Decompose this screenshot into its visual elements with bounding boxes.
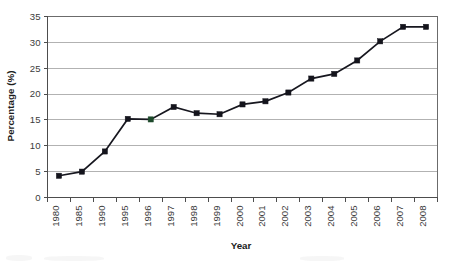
data-point-2006 [378, 39, 383, 44]
x-tick-label-2004: 2004 [325, 205, 336, 227]
x-tick-label-2007: 2007 [394, 206, 405, 227]
x-tick-label-1995: 1995 [119, 206, 130, 227]
data-point-1998 [194, 111, 199, 116]
x-tick-label-2003: 2003 [302, 206, 313, 227]
y-tick-label-35: 35 [30, 11, 41, 22]
y-tick-label-0: 0 [35, 192, 40, 203]
y-tick-label-15: 15 [30, 114, 41, 125]
data-point-1995 [125, 116, 130, 121]
y-tick-label-20: 20 [30, 88, 41, 99]
x-tick-label-2006: 2006 [371, 206, 382, 227]
data-point-2007 [400, 24, 405, 29]
x-tick-label-1990: 1990 [96, 206, 107, 227]
data-point-1999 [217, 112, 222, 117]
y-tick-label-10: 10 [30, 140, 41, 151]
y-tick-label-5: 5 [35, 166, 40, 177]
data-point-1985 [79, 169, 84, 174]
x-axis-title: Year [231, 240, 252, 251]
x-tick-label-1980: 1980 [50, 206, 61, 227]
x-tick-label-1999: 1999 [211, 206, 222, 227]
chart-canvas: 05101520253035 1980198519901995199619971… [0, 0, 454, 263]
x-tick-label-1985: 1985 [73, 206, 84, 227]
x-tick-label-2005: 2005 [348, 206, 359, 227]
x-tick-label-2001: 2001 [256, 206, 267, 227]
data-point-2000 [240, 102, 245, 107]
y-tick-label-25: 25 [30, 63, 41, 74]
x-tick-label-1997: 1997 [165, 206, 176, 227]
x-tick-label-1996: 1996 [142, 206, 153, 227]
data-point-2008 [423, 24, 428, 29]
data-point-2004 [332, 71, 337, 76]
data-point-1980 [56, 173, 61, 178]
x-axis-tick-labels: 1980198519901995199619971998199920002001… [50, 205, 428, 227]
data-point-1997 [171, 104, 176, 109]
data-point-2002 [286, 90, 291, 95]
scan-artifact [6, 255, 32, 261]
x-tick-label-2000: 2000 [234, 206, 245, 227]
x-tick-label-1998: 1998 [188, 206, 199, 227]
data-point-2003 [309, 76, 314, 81]
scan-artifact [44, 256, 104, 261]
line-chart: 05101520253035 1980198519901995199619971… [0, 0, 454, 263]
chart-background [0, 0, 454, 263]
x-tick-label-2002: 2002 [279, 206, 290, 227]
y-tick-label-30: 30 [30, 37, 41, 48]
data-point-1990 [102, 149, 107, 154]
x-tick-label-2008: 2008 [417, 206, 428, 227]
scan-artifact [300, 256, 344, 261]
data-point-1996 [148, 117, 153, 122]
y-axis-title: Percentage (%) [5, 71, 16, 142]
data-point-2001 [263, 99, 268, 104]
data-point-2005 [355, 58, 360, 63]
